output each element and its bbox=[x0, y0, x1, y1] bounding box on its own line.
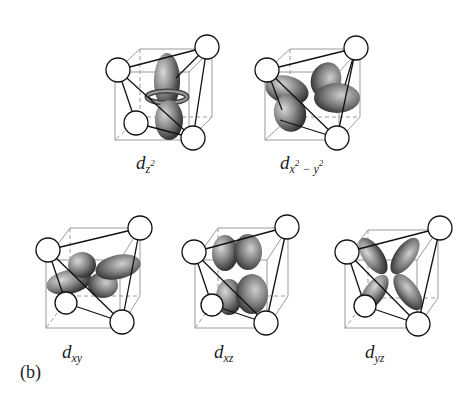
label-sub: z2 bbox=[146, 162, 155, 176]
ligand-atom bbox=[335, 240, 359, 264]
ligand-atom bbox=[325, 126, 349, 150]
label-base: d bbox=[136, 152, 146, 173]
label-base: d bbox=[214, 341, 224, 362]
panel-dx2-y2 bbox=[255, 36, 368, 150]
label-sub: x2 − y2 bbox=[290, 162, 324, 176]
label-base: d bbox=[365, 341, 375, 362]
ligand-atom bbox=[254, 311, 278, 335]
ligands bbox=[182, 215, 299, 335]
ligand-atom bbox=[128, 216, 152, 240]
label-dxy: dxy bbox=[62, 341, 82, 366]
ligand-atom bbox=[124, 111, 148, 135]
label-base: d bbox=[62, 341, 72, 362]
ligand-atom bbox=[275, 215, 299, 239]
label-tail-sup: 2 bbox=[319, 158, 324, 168]
ligand-atom bbox=[195, 35, 219, 59]
label-dxz: dxz bbox=[214, 341, 234, 366]
ligand-atom bbox=[201, 294, 223, 316]
label-sub: xy bbox=[72, 351, 83, 365]
label-sup: 2 bbox=[150, 158, 155, 168]
ligand-atom bbox=[182, 240, 206, 264]
part-label: (b) bbox=[20, 362, 41, 383]
panel-dz2 bbox=[106, 35, 219, 150]
ligand-atom bbox=[106, 58, 130, 82]
panel-dxy bbox=[36, 216, 152, 334]
ligand-atom bbox=[55, 292, 77, 314]
ligand-atom bbox=[344, 36, 368, 60]
panel-dyz bbox=[335, 216, 452, 336]
ligand-atom bbox=[36, 238, 60, 262]
ligand-atom bbox=[354, 295, 376, 317]
ligand-atom bbox=[406, 312, 430, 336]
ligands bbox=[335, 216, 452, 336]
ligand-atom bbox=[110, 310, 134, 334]
orbital-figure bbox=[0, 0, 473, 398]
ligand-atom bbox=[428, 216, 452, 240]
ligand-atom bbox=[255, 58, 279, 82]
label-dz2: dz2 bbox=[136, 152, 155, 177]
panel-dxz bbox=[182, 215, 299, 335]
label-base: d bbox=[280, 152, 290, 173]
label-tail: − y bbox=[299, 162, 318, 176]
label-sub: yz bbox=[375, 351, 385, 365]
label-sub: xz bbox=[224, 351, 234, 365]
label-dyz: dyz bbox=[365, 341, 385, 366]
ligand-atom bbox=[181, 126, 205, 150]
label-dx2-y2: dx2 − y2 bbox=[280, 152, 323, 177]
